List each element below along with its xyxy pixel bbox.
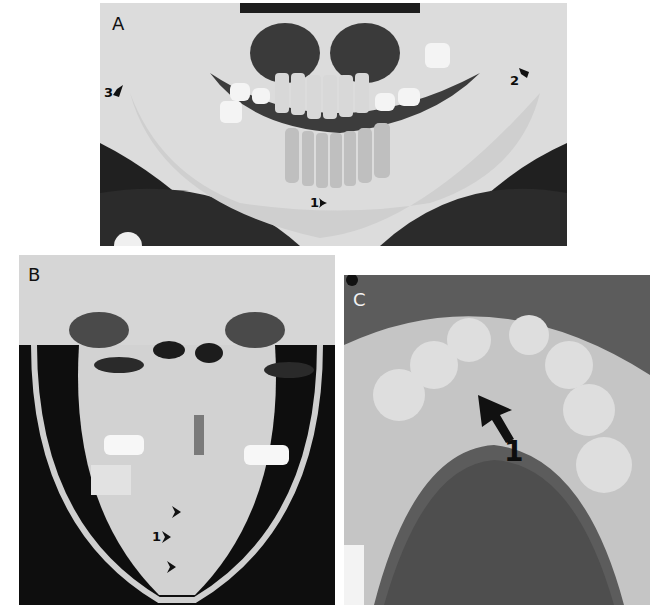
panoramic-radiograph-image	[100, 3, 567, 246]
panel-a-label: A	[112, 13, 124, 34]
arrow-down-left-icon	[113, 85, 125, 99]
panel-b-frontal: B 1	[19, 255, 335, 605]
panel-c-label: C	[353, 289, 366, 310]
marker-a3-number: 3	[104, 85, 113, 100]
marker-b1-number: 1	[152, 529, 161, 544]
panel-b-label: B	[28, 264, 40, 285]
arrow-right-icon	[172, 505, 182, 519]
frontal-radiograph-image	[19, 255, 335, 605]
arrow-right-icon	[167, 560, 177, 574]
panel-a-panoramic: A 1 2 3	[100, 3, 567, 246]
marker-a1-number: 1	[310, 195, 319, 210]
arrow-right-icon	[162, 530, 172, 544]
arrow-down-right-icon	[519, 68, 531, 80]
arrow-right-icon	[319, 196, 329, 210]
marker-c1-number: 1	[504, 435, 523, 468]
panel-c-occlusal: C 1	[344, 275, 650, 605]
marker-a2-number: 2	[510, 73, 519, 88]
